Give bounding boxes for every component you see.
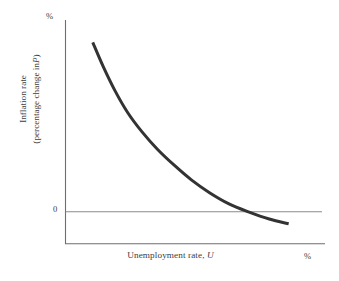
x-axis-title: Unemployment rate, U	[0, 250, 339, 262]
y-axis-unit-label: %	[46, 11, 53, 22]
y-axis-title-line-2-variable: P	[31, 57, 41, 63]
x-axis-title-variable: U	[207, 250, 214, 260]
y-axis-title-line-2: (percentage change inP)	[30, 19, 43, 179]
y-axis-zero-tick-label: 0	[53, 204, 57, 215]
chart-plot-area	[0, 0, 339, 281]
y-axis-title-line-1: Inflation rate	[17, 19, 30, 179]
y-axis-title: Inflation rate (percentage change inP)	[17, 19, 45, 179]
phillips-curve-line	[93, 42, 289, 223]
y-axis-title-line-2-prefix: (percentage change in	[31, 63, 41, 144]
phillips-curve-figure: % 0 % Unemployment rate, U Inflation rat…	[0, 0, 339, 281]
y-axis-title-line-2-suffix: )	[31, 54, 41, 57]
x-axis-title-text: Unemployment rate,	[127, 250, 204, 260]
